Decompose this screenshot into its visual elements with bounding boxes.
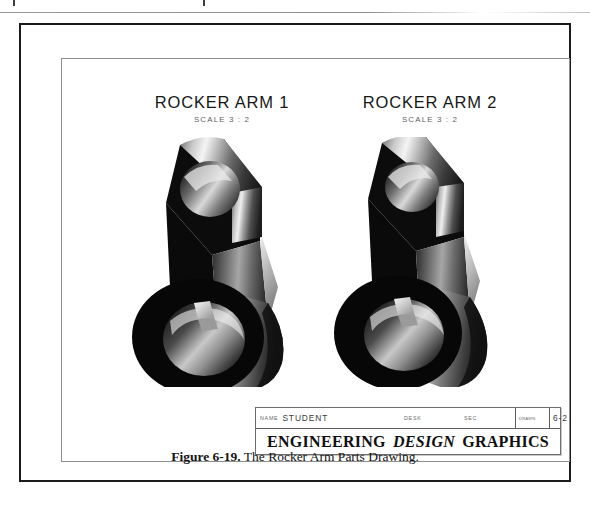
figure-caption-label: Figure 6-19. xyxy=(171,449,241,464)
title-block-name-cell[interactable]: NAME STUDENT xyxy=(260,408,400,428)
scan-speck xyxy=(13,0,15,6)
rocker-arm-solid-svg xyxy=(308,137,548,387)
part-title: ROCKER ARM 2 xyxy=(330,93,530,112)
figure-border: ROCKER ARM 1 SCALE 3 : 2 ROCKER ARM 2 SC… xyxy=(19,23,571,482)
title-block: NAME STUDENT DESK SEC DRAWN xyxy=(255,407,561,455)
scanned-textbook-page: ROCKER ARM 1 SCALE 3 : 2 ROCKER ARM 2 SC… xyxy=(0,0,590,506)
company-word-graphics: GRAPHICS xyxy=(462,433,549,451)
title-block-drawing-number-cell[interactable]: 6-2 xyxy=(549,408,570,428)
part-label-rocker-arm-1: ROCKER ARM 1 SCALE 3 : 2 xyxy=(122,93,322,124)
name-field-label: NAME xyxy=(260,415,278,421)
rocker-arm-1-isometric-render xyxy=(92,137,332,391)
name-field-value: STUDENT xyxy=(282,413,328,423)
page-divider-rule xyxy=(0,12,590,13)
drawing-number-value: 6-2 xyxy=(553,413,568,423)
sec-field-label: SEC xyxy=(464,415,477,421)
title-block-sec-cell[interactable]: SEC xyxy=(464,408,514,428)
part-scale: SCALE 3 : 2 xyxy=(122,115,322,124)
company-word-engineering: ENGINEERING xyxy=(267,433,386,451)
figure-caption-text: The Rocker Arm Parts Drawing. xyxy=(241,449,419,464)
scan-speck xyxy=(203,0,205,6)
rocker-arm-2-isometric-render xyxy=(308,137,548,391)
desk-field-label: DESK xyxy=(404,415,421,421)
title-block-desk-cell[interactable]: DESK xyxy=(404,408,460,428)
rocker-arm-solid-svg xyxy=(92,137,332,387)
drawing-sheet-border: ROCKER ARM 1 SCALE 3 : 2 ROCKER ARM 2 SC… xyxy=(61,58,570,462)
part-label-rocker-arm-2: ROCKER ARM 2 SCALE 3 : 2 xyxy=(330,93,530,124)
part-scale: SCALE 3 : 2 xyxy=(330,115,530,124)
company-word-design: DESIGN xyxy=(393,433,455,451)
title-block-drawn-cell[interactable]: DRAWN xyxy=(515,408,549,428)
part-title: ROCKER ARM 1 xyxy=(122,93,322,112)
title-block-fields-row: NAME STUDENT DESK SEC DRAWN xyxy=(256,408,560,429)
drawn-field-label: DRAWN xyxy=(519,416,535,421)
figure-caption: Figure 6-19. The Rocker Arm Parts Drawin… xyxy=(0,449,590,465)
upper-boss-side-wall xyxy=(436,183,464,237)
